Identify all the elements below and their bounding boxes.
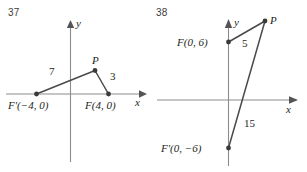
segment-length-label-5: 5: [242, 38, 248, 49]
point-label-p: P: [270, 15, 277, 26]
y-axis-label: y: [76, 18, 81, 29]
figure-panel-38: 38 x y F(0, 6) F'(0, −6) P 5 15: [153, 0, 307, 172]
figure-page: 37 x y F'(−4, 0) F(4, 0) P 7 3 38: [0, 0, 307, 172]
x-axis-label: x: [286, 104, 291, 115]
y-axis-arrowhead: [225, 19, 232, 28]
point-label-f: F(0, 6): [177, 37, 208, 48]
y-axis-arrowhead: [67, 20, 74, 28]
point-p-marker: [93, 68, 98, 73]
point-f-prime-marker: [226, 146, 231, 151]
point-f-prime-marker: [34, 92, 39, 97]
x-axis-arrowhead: [139, 90, 147, 98]
segment-length-label-3: 3: [110, 71, 116, 82]
point-label-f: F(4, 0): [85, 100, 116, 111]
point-f-marker: [106, 92, 111, 97]
point-p-marker: [263, 19, 268, 24]
figure-panel-37: 37 x y F'(−4, 0) F(4, 0) P 7 3: [0, 0, 153, 172]
point-label-p: P: [92, 55, 99, 66]
segment-f-prime-to-p: [37, 71, 96, 95]
point-label-f-prime: F'(0, −6): [161, 143, 201, 154]
segment-length-label-15: 15: [244, 118, 255, 129]
point-label-f-prime: F'(−4, 0): [8, 100, 48, 111]
y-axis-label: y: [234, 17, 239, 28]
segment-p-to-f: [95, 71, 109, 95]
point-f-marker: [226, 40, 231, 45]
segment-length-label-7: 7: [49, 66, 55, 77]
x-axis-label: x: [135, 97, 140, 108]
